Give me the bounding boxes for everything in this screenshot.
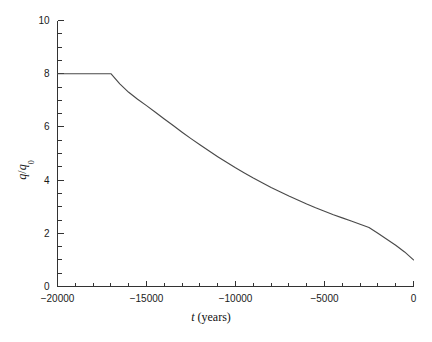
x-axis-title: t (years)	[191, 310, 231, 324]
chart-background	[0, 0, 432, 342]
chart-page: −20000−15000−10000−50000 0246810 t (year…	[0, 0, 432, 342]
x-tick-label: −5000	[310, 293, 339, 304]
y-tick-label: 2	[44, 228, 50, 239]
chart-canvas: −20000−15000−10000−50000 0246810 t (year…	[0, 0, 432, 342]
x-tick-label: 0	[411, 293, 417, 304]
y-tick-label: 4	[44, 175, 50, 186]
y-tick-label: 0	[44, 281, 50, 292]
y-tick-label: 8	[44, 68, 50, 79]
x-tick-label: −10000	[219, 293, 253, 304]
y-tick-label: 10	[38, 15, 50, 26]
y-tick-label: 6	[44, 121, 50, 132]
x-tick-label: −20000	[41, 293, 75, 304]
x-tick-label: −15000	[130, 293, 164, 304]
